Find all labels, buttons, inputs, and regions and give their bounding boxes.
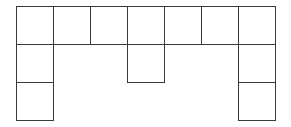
grid-cell-r1-c6	[238, 44, 276, 83]
grid-cell-r0-c0	[16, 6, 54, 45]
grid-cell-r0-c4	[164, 6, 202, 45]
grid-cell-r0-c5	[201, 6, 239, 45]
grid-cell-r2-c6	[238, 82, 276, 121]
grid-cell-r1-c0	[16, 44, 54, 83]
polyomino-diagram	[0, 0, 291, 127]
grid-cell-r0-c2	[90, 6, 128, 45]
grid-cell-r1-c3	[127, 44, 165, 83]
grid-cell-r2-c0	[16, 82, 54, 121]
grid-cell-r0-c1	[53, 6, 91, 45]
grid-cell-r0-c6	[238, 6, 276, 45]
grid-cell-r0-c3	[127, 6, 165, 45]
